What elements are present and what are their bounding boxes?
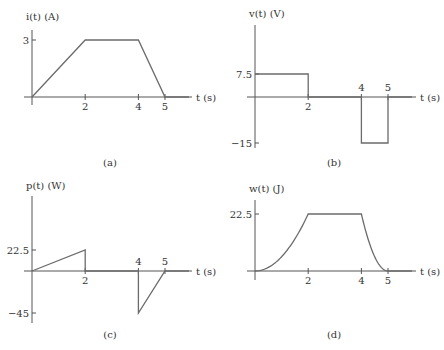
- x-axis-label-c: t (s): [196, 266, 216, 277]
- x-axis-label-b: t (s): [420, 92, 440, 103]
- y-tick-label-d-0: 22.5: [230, 209, 252, 220]
- figure: i(t) (A)t (s)2453(a)v(t) (V)t (s)2457.5−…: [0, 0, 444, 350]
- y-tick-label-b-1: −15: [231, 138, 252, 149]
- x-tick-label-c-2: 5: [162, 256, 168, 267]
- y-tick-label-b-0: 7.5: [236, 69, 252, 80]
- x-tick-label-a-2: 5: [162, 101, 168, 112]
- y-tick-label-c-0: 22.5: [7, 245, 29, 256]
- x-tick-label-b-2: 5: [385, 82, 391, 93]
- caption-b: (b): [327, 157, 341, 168]
- series-line-d-0: [255, 214, 412, 271]
- x-tick-label-b-1: 4: [358, 82, 364, 93]
- x-tick-label-b-0: 2: [305, 101, 311, 112]
- series-line-a-0: [32, 40, 189, 97]
- x-axis-label-d: t (s): [420, 266, 440, 277]
- y-axis-label-c: p(t) (W): [26, 180, 66, 191]
- x-tick-label-a-0: 2: [82, 101, 88, 112]
- x-tick-label-d-0: 2: [305, 275, 311, 286]
- y-tick-label-a-0: 3: [23, 35, 29, 46]
- y-tick-label-c-1: −45: [8, 308, 29, 319]
- x-tick-label-d-1: 4: [358, 275, 364, 286]
- caption-d: (d): [327, 329, 341, 340]
- y-axis-label-a: i(t) (A): [26, 11, 59, 22]
- caption-c: (c): [103, 329, 117, 340]
- x-tick-label-c-0: 2: [82, 275, 88, 286]
- y-axis-label-b: v(t) (V): [248, 8, 285, 19]
- y-axis-label-d: w(t) (J): [249, 183, 284, 194]
- x-tick-label-c-1: 4: [135, 256, 141, 267]
- caption-a: (a): [103, 157, 117, 168]
- x-tick-label-a-1: 4: [135, 101, 141, 112]
- x-tick-label-d-2: 5: [385, 275, 391, 286]
- x-axis-label-a: t (s): [196, 92, 216, 103]
